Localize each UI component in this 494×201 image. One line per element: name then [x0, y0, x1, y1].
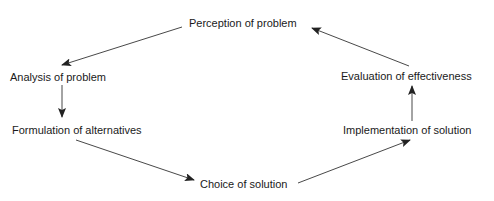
- node-choice: Choice of solution: [200, 178, 287, 191]
- node-formulation: Formulation of alternatives: [12, 124, 142, 137]
- node-evaluation: Evaluation of effectiveness: [341, 70, 472, 83]
- node-perception: Perception of problem: [189, 17, 297, 30]
- node-implementation: Implementation of solution: [343, 124, 471, 137]
- edges-layer: [0, 0, 494, 201]
- node-analysis: Analysis of problem: [10, 71, 106, 84]
- arrow-formulation-to-choice: [76, 140, 194, 180]
- arrow-evaluation-to-perception: [312, 28, 409, 66]
- arrow-perception-to-analysis: [62, 27, 182, 65]
- cycle-diagram: Perception of problem Analysis of proble…: [0, 0, 494, 201]
- arrow-choice-to-implementation: [298, 140, 410, 183]
